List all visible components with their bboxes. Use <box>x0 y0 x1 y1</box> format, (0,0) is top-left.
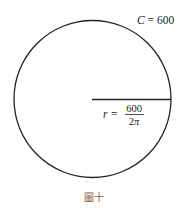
circumference-label: C = 600 <box>137 14 174 26</box>
radius-denominator: 2π <box>129 116 140 127</box>
radius-numerator: 600 <box>126 103 142 114</box>
figure-caption: 圖十 <box>80 189 108 204</box>
radius-label-var: r <box>103 108 108 120</box>
circle-diagram: C = 600 r = 600 2π <box>0 0 187 208</box>
radius-label-eq: = <box>111 108 118 120</box>
